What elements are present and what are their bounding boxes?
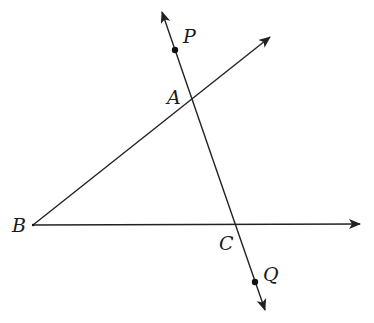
label-p: P: [182, 25, 197, 47]
label-b: B: [11, 214, 26, 236]
ray-ba: [33, 37, 270, 225]
ray-bc: [33, 224, 360, 225]
point-q: [252, 279, 258, 285]
point-p: [172, 47, 178, 53]
point-b: [32, 224, 34, 226]
label-c: C: [219, 232, 234, 254]
geometry-diagram: P A B C Q: [0, 0, 374, 323]
label-a: A: [165, 86, 181, 108]
label-q: Q: [263, 263, 279, 285]
